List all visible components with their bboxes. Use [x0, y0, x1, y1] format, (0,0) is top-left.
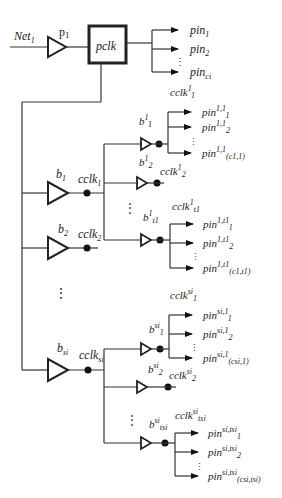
svg-text:⋮: ⋮ — [175, 56, 185, 67]
svg-text:p1: p1 — [59, 25, 70, 40]
svg-text:cclksi2: cclksi2 — [169, 367, 196, 383]
svg-text:⋮: ⋮ — [195, 462, 204, 472]
svg-text:cclk1: cclk1 — [78, 172, 101, 188]
svg-text:cclk1t1: cclk1t1 — [172, 198, 200, 214]
svg-text:pclk: pclk — [95, 39, 117, 53]
svg-text:pinci: pinci — [189, 65, 211, 81]
svg-text:pinsi,tsi1: pinsi,tsi1 — [207, 425, 241, 441]
pclk-box: pclk — [89, 26, 126, 63]
svg-text:⋮: ⋮ — [189, 137, 198, 147]
svg-text:bsi1: bsi1 — [149, 321, 164, 337]
svg-text:pinsi,11: pinsi,11 — [202, 307, 232, 323]
svg-text:b11: b11 — [139, 113, 152, 129]
svg-text:pin1,t1(c1,t1): pin1,t1(c1,t1) — [202, 260, 251, 276]
buffer-bsi: bsi cclksi — [22, 341, 104, 381]
branch-si: bsi1 cclksi1 pinsi,11 pinsi,12 ⋮ pinsi,1… — [104, 287, 261, 484]
svg-text:cclksitsi: cclksitsi — [175, 407, 206, 423]
svg-text:bsi2: bsi2 — [148, 361, 163, 377]
svg-text:b12: b12 — [139, 154, 153, 170]
svg-text:Net1: Net1 — [13, 29, 35, 45]
svg-text:cclksi: cclksi — [79, 348, 104, 364]
level1-ellipsis: ⋮ — [54, 286, 68, 301]
svg-text:cclk2: cclk2 — [78, 227, 101, 243]
svg-text:b2: b2 — [58, 222, 68, 238]
main-trunk — [22, 63, 101, 370]
svg-text:cclk11: cclk11 — [170, 84, 195, 100]
svg-text:pinsi,tsi(csi,tsi): pinsi,tsi(csi,tsi) — [207, 468, 261, 484]
svg-text:cclk12: cclk12 — [160, 163, 186, 179]
svg-text:⋮: ⋮ — [124, 201, 136, 215]
svg-text:pinsi,tsi2: pinsi,tsi2 — [207, 444, 241, 460]
svg-text:pin1,t12: pin1,t12 — [202, 235, 233, 251]
svg-text:⋮: ⋮ — [126, 413, 138, 427]
svg-text:pinsi,1(csi,1): pinsi,1(csi,1) — [202, 350, 249, 366]
svg-text:b1: b1 — [56, 167, 66, 183]
svg-text:pin1,12: pin1,12 — [201, 119, 230, 135]
net-input: Net1 — [10, 29, 48, 47]
clock-tree-diagram: Net1 p1 pclk pin1 pin2 ⋮ pinci b1 cclk1 — [0, 0, 282, 498]
svg-text:cclksi1: cclksi1 — [170, 287, 197, 303]
svg-text:⋮: ⋮ — [190, 343, 199, 353]
svg-text:b1t1: b1t1 — [143, 209, 159, 225]
svg-text:pin1,1(c1,1): pin1,1(c1,1) — [201, 145, 245, 161]
svg-text:bsitsi: bsitsi — [149, 416, 167, 432]
pclk-pins: pin1 pin2 ⋮ pinci — [126, 23, 211, 81]
buffer-b2: b2 cclk2 — [22, 222, 101, 259]
primary-buffer-p1: p1 — [48, 25, 89, 57]
svg-text:bsi: bsi — [57, 341, 68, 357]
svg-text:pinsi,12: pinsi,12 — [202, 326, 232, 342]
svg-text:pin1,t11: pin1,t11 — [202, 216, 233, 232]
svg-text:⋮: ⋮ — [191, 252, 200, 262]
svg-text:pin2: pin2 — [189, 42, 209, 58]
svg-text:pin1: pin1 — [189, 23, 209, 39]
svg-text:pin1,11: pin1,11 — [201, 104, 229, 120]
branch-1: b11 cclk11 pin1,11 pin1,12 ⋮ pin1,1(c1,1… — [104, 84, 251, 276]
buffer-b1: b1 cclk1 — [22, 167, 104, 204]
